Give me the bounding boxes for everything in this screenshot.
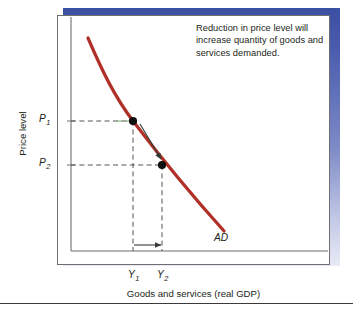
y-tick-label-p2: P2 <box>39 157 50 171</box>
y-tick-label-p1: P1 <box>39 113 50 127</box>
tick-subscript: 2 <box>164 274 169 283</box>
figure-root: Reduction in price level will increase q… <box>0 0 353 318</box>
y-axis-title: Price level <box>17 89 28 179</box>
bottom-separator-rule <box>0 303 353 304</box>
equilibrium-point-1 <box>129 117 137 125</box>
callout-text: Reduction in price level will increase q… <box>196 22 338 59</box>
tick-subscript: 2 <box>46 162 51 171</box>
tick-var: Y <box>157 269 164 280</box>
x-axis-title: Goods and services (real GDP) <box>57 288 330 299</box>
tick-subscript: 1 <box>135 274 140 283</box>
equilibrium-point-2 <box>158 161 166 169</box>
tick-subscript: 1 <box>46 118 51 127</box>
x-tick-label-y2: Y2 <box>157 269 168 283</box>
movement-arrow <box>140 124 161 159</box>
x-tick-label-y1: Y1 <box>128 269 139 283</box>
tick-var: P <box>39 157 46 168</box>
ad-curve <box>88 38 224 231</box>
tick-var: P <box>39 113 46 124</box>
ad-curve-label: AD <box>214 232 228 243</box>
tick-var: Y <box>128 269 135 280</box>
